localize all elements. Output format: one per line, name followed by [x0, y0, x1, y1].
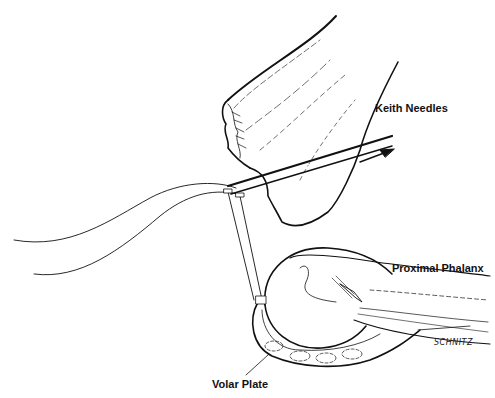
- label-volar-plate: Volar Plate: [212, 378, 268, 390]
- illustration: [0, 0, 495, 398]
- keith-needles: [228, 136, 392, 194]
- label-proximal-phalanx: Proximal Phalanx: [392, 262, 484, 274]
- suture-threads: [14, 183, 262, 300]
- artist-signature: SCHNITZ: [434, 338, 473, 347]
- upper-bone: [223, 16, 399, 226]
- volar-plate-leader: [246, 355, 268, 375]
- label-keith-needles: Keith Needles: [375, 102, 448, 114]
